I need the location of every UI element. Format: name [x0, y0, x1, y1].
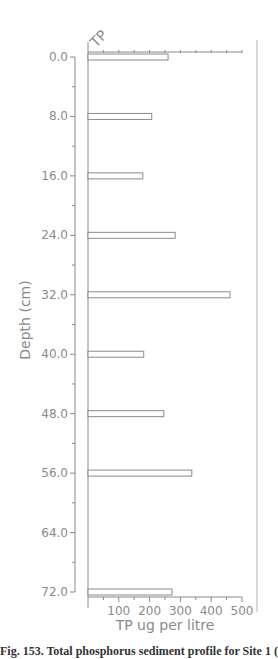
x-tick-label: 300	[169, 604, 192, 618]
bar-depth-48	[88, 411, 164, 417]
figure-caption: Fig. 153. Total phosphorus sediment prof…	[0, 644, 278, 659]
bar-depth-0	[88, 54, 168, 60]
depth-axis: 0.08.016.024.032.040.048.056.064.072.0	[41, 50, 75, 599]
y-tick-label: 16.0	[41, 169, 68, 183]
bar-depth-72	[88, 589, 172, 595]
bar-depth-56	[88, 470, 192, 476]
y-tick-label: 72.0	[41, 585, 68, 599]
x-tick-label: 500	[231, 604, 254, 618]
bar-depth-8	[88, 113, 152, 119]
bar-depth-40	[88, 351, 144, 357]
x-axis: 100200300400500	[88, 597, 253, 618]
y-tick-label: 0.0	[49, 50, 68, 64]
x-tick-label: 100	[107, 604, 130, 618]
x-tick-label: 400	[200, 604, 223, 618]
panel-title: TP	[86, 27, 110, 51]
y-tick-label: 40.0	[41, 347, 68, 361]
plot-frame	[88, 40, 257, 612]
y-axis-title: Depth (cm)	[17, 280, 33, 359]
bar-depth-16	[88, 173, 143, 179]
y-tick-label: 8.0	[49, 109, 68, 123]
bars	[88, 54, 230, 595]
y-tick-label: 24.0	[41, 228, 68, 242]
y-tick-label: 48.0	[41, 407, 68, 421]
x-axis-title: TP ug per litre	[115, 617, 215, 633]
bar-depth-32	[88, 292, 230, 298]
y-tick-label: 32.0	[41, 288, 68, 302]
x-tick-label: 200	[138, 604, 161, 618]
y-tick-label: 56.0	[41, 466, 68, 480]
tp-depth-chart: 0.08.016.024.032.040.048.056.064.072.0 1…	[0, 0, 278, 659]
y-tick-label: 64.0	[41, 526, 68, 540]
bar-depth-24	[88, 232, 175, 238]
